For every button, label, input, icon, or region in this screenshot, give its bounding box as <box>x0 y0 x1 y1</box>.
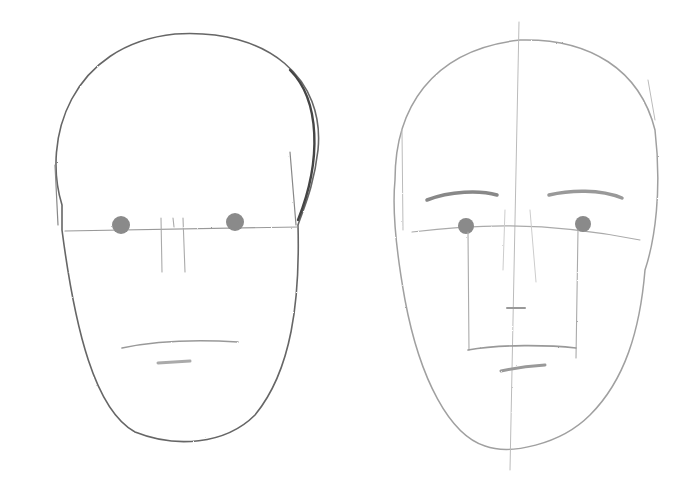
right-eye-right <box>575 216 591 232</box>
right-center-line <box>510 22 519 470</box>
right-brow-right <box>549 191 622 198</box>
right-lower-lip <box>501 365 545 371</box>
right-nose-guide-right <box>530 210 536 282</box>
left-head-outline <box>56 34 319 442</box>
left-nose-line-1 <box>161 218 162 272</box>
right-nose-guide-left <box>503 210 505 270</box>
sketch-canvas <box>0 0 698 493</box>
right-eye-left <box>458 218 474 234</box>
right-ear-line-left <box>402 130 403 230</box>
right-mouth-box-right <box>576 230 578 358</box>
left-eye-left <box>112 216 130 234</box>
right-ear-line-right <box>648 80 655 120</box>
left-eye-right <box>226 213 244 231</box>
left-ear-line-right <box>290 152 296 225</box>
left-lower-lip <box>158 361 190 363</box>
right-mouth-line <box>468 346 576 350</box>
right-mouth-box-left <box>468 232 469 350</box>
left-nose-line-3 <box>183 218 185 272</box>
right-eye-line <box>412 226 640 240</box>
left-mouth-line <box>122 341 238 348</box>
right-head-outline <box>394 40 658 449</box>
left-face <box>55 34 319 442</box>
left-eye-line <box>65 227 298 231</box>
left-nose-line-2 <box>173 218 174 227</box>
right-face <box>394 22 658 470</box>
right-brow-left <box>427 192 497 200</box>
